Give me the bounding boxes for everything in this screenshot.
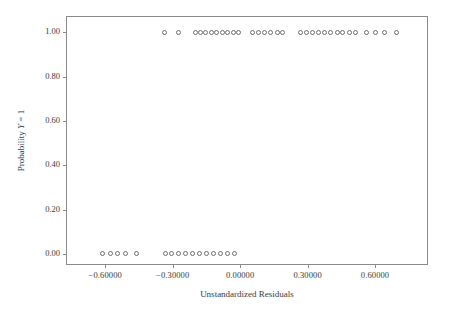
data-point [231, 30, 236, 35]
y-tick-label: 0.40 [45, 160, 60, 169]
data-point [316, 30, 321, 35]
y-tick-label: 1.00 [45, 27, 60, 36]
data-point [176, 251, 181, 256]
x-tick-mark [240, 264, 241, 268]
x-tick-label: 0.00000 [226, 271, 254, 280]
data-point [225, 30, 230, 35]
y-tick-label: 0.80 [45, 72, 60, 81]
plot-area [67, 17, 427, 264]
y-axis-title-variable: Y [16, 124, 26, 129]
data-point [304, 30, 309, 35]
x-tick-label: 0.30000 [293, 271, 321, 280]
data-point [169, 251, 174, 256]
plot-frame: 0.000.200.400.600.801.00 −0.60000−0.3000… [66, 16, 428, 265]
data-point [340, 30, 345, 35]
data-point [218, 251, 223, 256]
data-point [250, 30, 255, 35]
data-point [115, 251, 120, 256]
data-point [220, 30, 225, 35]
data-point [123, 251, 128, 256]
data-point [134, 251, 139, 256]
x-tick-mark [375, 264, 376, 268]
y-tick-label: 0.00 [45, 249, 60, 258]
data-point [211, 251, 216, 256]
x-tick-mark [173, 264, 174, 268]
y-tick-label: 0.20 [45, 205, 60, 214]
data-point [197, 251, 202, 256]
data-point [209, 30, 214, 35]
data-point [347, 30, 352, 35]
y-axis-title-prefix: Probability [16, 129, 26, 171]
data-point [163, 251, 168, 256]
y-tick-mark [63, 210, 67, 211]
data-point [275, 30, 280, 35]
x-tick-label: 0.60000 [361, 271, 389, 280]
data-point [382, 30, 387, 35]
data-point [328, 30, 333, 35]
data-point [225, 251, 230, 256]
data-point [268, 30, 273, 35]
data-point [280, 30, 285, 35]
y-tick-mark [63, 165, 67, 166]
data-point [190, 251, 195, 256]
data-point [203, 30, 208, 35]
data-point [183, 251, 188, 256]
data-point [353, 30, 358, 35]
data-point [232, 251, 237, 256]
x-tick-mark [105, 264, 106, 268]
y-axis-title: Probability Y = 1 [14, 16, 28, 265]
data-point [176, 30, 181, 35]
scatter-plot-figure: 0.000.200.400.600.801.00 −0.60000−0.3000… [0, 0, 449, 313]
data-point [236, 30, 241, 35]
x-tick-label: −0.60000 [89, 271, 122, 280]
y-tick-mark [63, 121, 67, 122]
data-point [198, 30, 203, 35]
x-axis-title: Unstandardized Residuals [66, 290, 428, 299]
data-point [310, 30, 315, 35]
y-tick-label: 0.60 [45, 116, 60, 125]
x-tick-label: −0.30000 [156, 271, 189, 280]
x-tick-mark [308, 264, 309, 268]
data-point [214, 30, 219, 35]
y-tick-mark [63, 77, 67, 78]
data-point [373, 30, 378, 35]
data-point [262, 30, 267, 35]
y-tick-mark [63, 254, 67, 255]
data-point [298, 30, 303, 35]
data-point [394, 30, 399, 35]
y-tick-mark [63, 32, 67, 33]
data-point [100, 251, 105, 256]
data-point [322, 30, 327, 35]
data-point [335, 30, 340, 35]
data-point [108, 251, 113, 256]
data-point [204, 251, 209, 256]
data-point [364, 30, 369, 35]
data-point [162, 30, 167, 35]
y-axis-title-suffix: = 1 [16, 110, 26, 124]
data-point [256, 30, 261, 35]
